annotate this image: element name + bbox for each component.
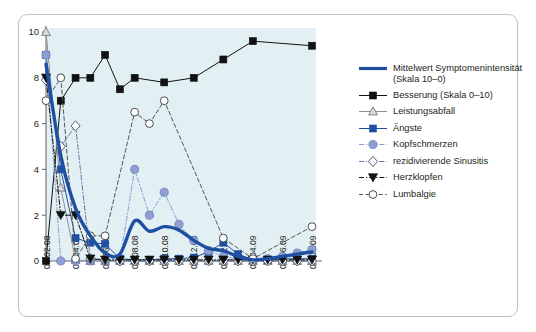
legend-kopfschmerzen-marker	[369, 141, 377, 149]
legend-item-besserung-skala-0-10[interactable]: Besserung (Skala 0–10)	[358, 89, 530, 102]
legend-label-mittelwert-symptomenintensit-t-skala-10-0: Mittelwert Symptomenintensität (Skala 10…	[393, 62, 522, 85]
chart-figure: 024681008.02.0808.04.0808.06.0808.08.080…	[0, 0, 536, 332]
chart-legend: Mittelwert Symptomenintensität (Skala 10…	[358, 62, 530, 204]
legend-item-mittelwert-symptomenintensit-t-skala-10-0[interactable]: Mittelwert Symptomenintensität (Skala 10…	[358, 62, 530, 85]
series-lumbalgie-marker	[101, 232, 109, 240]
series-kopfschmerzen-marker	[42, 51, 50, 59]
legend-label-ngste: Ängste	[393, 122, 422, 134]
legend-marker-lumbalgie	[358, 188, 388, 201]
legend-leistungsabfall-marker	[369, 107, 378, 115]
legend-marker-besserung-skala-0-10	[358, 89, 388, 102]
series-besserung-skala-0-10-marker	[87, 74, 94, 81]
series-besserung-skala-0-10-marker	[161, 79, 168, 86]
legend-marker-herzklopfen	[358, 171, 388, 184]
legend-label-herzklopfen: Herzklopfen	[393, 171, 443, 183]
legend-item-kopfschmerzen[interactable]: Kopfschmerzen	[358, 138, 530, 151]
series-besserung-skala-0-10-marker	[72, 74, 79, 81]
series-besserung-skala-0-10-marker	[249, 38, 256, 45]
legend-marker-ngste	[358, 122, 388, 135]
legend-rezidivierende-sinusitis-marker	[368, 156, 377, 166]
y-tick-label: 0	[34, 255, 39, 266]
legend-item-herzklopfen[interactable]: Herzklopfen	[358, 171, 530, 184]
series-besserung-skala-0-10-marker	[43, 258, 50, 265]
series-kopfschmerzen-marker	[57, 257, 65, 265]
legend-marker-leistungsabfall	[358, 105, 388, 118]
legend-marker-mittelwert-symptomenintensit-t-skala-10-0	[358, 62, 388, 75]
legend-ngste-marker	[370, 125, 377, 132]
legend-label-besserung-skala-0-10: Besserung (Skala 0–10)	[393, 89, 493, 101]
y-tick-label: 6	[34, 118, 39, 129]
series-ngste-marker	[72, 235, 79, 242]
series-lumbalgie-marker	[57, 74, 65, 82]
legend-item-rezidivierende-sinusitis[interactable]: rezidivierende Sinusitis	[358, 155, 530, 168]
series-kopfschmerzen-marker	[160, 188, 168, 196]
series-lumbalgie-marker	[219, 234, 227, 242]
legend-item-lumbalgie[interactable]: Lumbalgie	[358, 188, 530, 201]
series-besserung-skala-0-10-marker	[131, 74, 138, 81]
legend-item-ngste[interactable]: Ängste	[358, 122, 530, 135]
legend-label-leistungsabfall: Leistungsabfall	[393, 105, 455, 117]
y-tick-label: 10	[28, 26, 39, 37]
legend-label-kopfschmerzen: Kopfschmerzen	[393, 138, 458, 150]
series-lumbalgie-marker	[146, 120, 154, 128]
series-lumbalgie-marker	[42, 97, 50, 105]
legend-marker-rezidivierende-sinusitis	[358, 155, 388, 168]
series-lumbalgie-marker	[160, 97, 168, 105]
series-lumbalgie-marker	[308, 223, 316, 231]
series-lumbalgie-marker	[131, 108, 139, 116]
y-tick-label: 8	[34, 72, 39, 83]
legend-item-leistungsabfall[interactable]: Leistungsabfall	[358, 105, 530, 118]
series-kopfschmerzen-marker	[131, 165, 139, 173]
legend-label-rezidivierende-sinusitis: rezidivierende Sinusitis	[393, 155, 488, 167]
series-ngste-marker	[102, 240, 109, 247]
series-besserung-skala-0-10-marker	[116, 86, 123, 93]
legend-marker-kopfschmerzen	[358, 138, 388, 151]
y-tick-label: 2	[34, 210, 39, 221]
legend-besserung-skala-0-10-marker	[370, 92, 377, 99]
series-lumbalgie-marker	[72, 255, 80, 263]
legend-label-lumbalgie: Lumbalgie	[393, 188, 436, 200]
y-tick-label: 4	[34, 164, 39, 175]
series-besserung-skala-0-10-marker	[309, 42, 316, 49]
legend-lumbalgie-marker	[369, 191, 377, 199]
series-besserung-skala-0-10-marker	[220, 56, 227, 63]
series-kopfschmerzen-marker	[145, 211, 153, 219]
series-besserung-skala-0-10-marker	[190, 74, 197, 81]
series-besserung-skala-0-10-marker	[102, 51, 109, 58]
